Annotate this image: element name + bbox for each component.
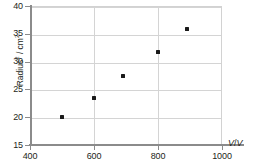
y-axis-tick xyxy=(25,6,30,7)
y-axis-tick xyxy=(25,34,30,35)
data-point xyxy=(121,74,125,78)
y-axis-label-text: Radius2 / cm2 xyxy=(15,35,25,87)
data-point xyxy=(185,27,189,31)
x-axis-tick xyxy=(222,146,223,150)
y-axis-line xyxy=(30,5,32,146)
x-axis-tick-label: 400 xyxy=(10,152,50,161)
plot-area xyxy=(30,6,222,145)
gridline-horizontal xyxy=(30,118,221,119)
y-axis-label: Radius2 / cm2 xyxy=(16,1,25,121)
data-point xyxy=(92,96,96,100)
x-axis-tick xyxy=(94,146,95,150)
x-axis-unit: V xyxy=(237,138,243,148)
x-axis-tick-label: 1000 xyxy=(202,152,242,161)
scatter-chart: 1520253035404006008001000 Radius2 / cm2 … xyxy=(0,0,256,168)
gridline-horizontal xyxy=(30,90,221,91)
x-axis-tick xyxy=(30,146,31,150)
y-axis-tick xyxy=(25,89,30,90)
gridline-vertical xyxy=(158,7,159,145)
gridline-horizontal xyxy=(30,63,221,64)
data-point xyxy=(60,115,64,119)
y-axis-tick-label: 15 xyxy=(0,141,23,150)
gridline-horizontal xyxy=(30,35,221,36)
y-axis-tick xyxy=(25,117,30,118)
gridline-vertical xyxy=(94,7,95,145)
data-point xyxy=(156,50,160,54)
x-axis-line xyxy=(29,144,244,146)
x-axis-tick-label: 800 xyxy=(138,152,178,161)
gridline-horizontal xyxy=(30,7,221,8)
x-axis-label: V/V xyxy=(228,139,243,148)
y-axis-tick xyxy=(25,62,30,63)
x-axis-tick-label: 600 xyxy=(74,152,114,161)
x-axis-tick xyxy=(158,146,159,150)
